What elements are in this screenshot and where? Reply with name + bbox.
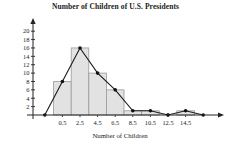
data-point-marker [149, 109, 153, 113]
y-tick-label: 4 [26, 95, 30, 102]
y-axis-arrow-icon [30, 18, 35, 24]
data-point-marker [78, 46, 82, 50]
y-tick-label: 16 [23, 44, 29, 51]
x-tick-label: 14.5 [180, 119, 191, 126]
x-tick-label: 2.5 [76, 119, 84, 126]
y-tick-label: 2 [26, 103, 29, 110]
y-tick-label: 18 [23, 36, 29, 43]
y-tick-label: 20 [23, 27, 29, 34]
histogram-bar [54, 81, 72, 115]
y-tick-label: 12 [23, 61, 29, 68]
x-tick-label: 8.5 [129, 119, 137, 126]
x-axis-tick-labels: 0.52.54.56.58.510.512.514.5 [58, 119, 191, 126]
x-tick-label: 6.5 [111, 119, 119, 126]
data-point-marker [184, 109, 188, 113]
data-point-marker [61, 80, 65, 84]
y-axis-tick-labels: 2468101214161820 [23, 27, 30, 109]
plot-area: 2468101214161820 0.52.54.56.58.510.512.5… [0, 0, 231, 154]
x-tick-label: 0.5 [58, 119, 66, 126]
y-tick-label: 8 [26, 78, 29, 85]
data-point-marker [96, 71, 100, 75]
x-tick-label: 4.5 [94, 119, 102, 126]
x-tick-label: 10.5 [145, 119, 156, 126]
x-axis-arrow-icon [218, 112, 224, 117]
y-tick-label: 10 [23, 69, 29, 76]
histogram-bar [71, 48, 89, 115]
data-point-marker [131, 109, 135, 113]
x-tick-label: 12.5 [162, 119, 173, 126]
data-point-marker [113, 88, 117, 92]
chart-figure: Number of Children of U.S. Presidents Nu… [0, 0, 231, 154]
y-tick-label: 6 [26, 86, 29, 93]
y-tick-label: 14 [23, 53, 30, 60]
histogram-bar [106, 90, 124, 115]
